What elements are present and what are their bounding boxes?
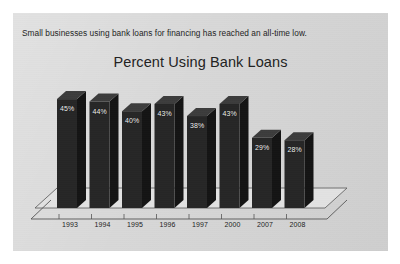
bar-column: [57, 91, 86, 208]
bar-column: [90, 94, 119, 208]
bar-column: [122, 103, 151, 208]
x-axis-tick-label: 2007: [257, 221, 273, 228]
bar-column: [220, 96, 249, 208]
bar-column: [252, 130, 281, 208]
bar-column: [285, 132, 314, 208]
chart-svg: [13, 13, 388, 251]
bar-column: [155, 96, 184, 208]
x-axis-tick-label: 1997: [192, 221, 208, 228]
x-axis-tick-label: 2000: [225, 221, 241, 228]
x-axis-tick-label: 1993: [62, 221, 78, 228]
x-axis-tick-label: 1994: [95, 221, 111, 228]
x-axis-tick-label: 1995: [127, 221, 143, 228]
bar-chart-plot: 45%199344%199440%199543%199638%199743%20…: [13, 13, 388, 251]
chart-screenshot: Small businesses using bank loans for fi…: [0, 0, 400, 264]
x-axis-tick-label: 2008: [290, 221, 306, 228]
bar-column: [187, 108, 216, 208]
chart-panel: Small businesses using bank loans for fi…: [13, 13, 388, 251]
x-axis-tick-label: 1996: [160, 221, 176, 228]
